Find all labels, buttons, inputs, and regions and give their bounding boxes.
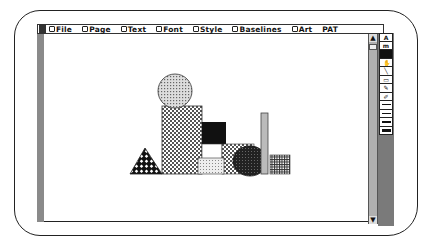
file-menu-icon — [49, 26, 55, 32]
pencil-tool-icon[interactable]: ✎ — [379, 84, 393, 93]
line-weight-3-icon — [382, 121, 391, 123]
line-weight-3-button[interactable] — [379, 118, 393, 127]
line-weight-1-button[interactable] — [379, 101, 393, 110]
drawing-canvas[interactable] — [44, 34, 368, 222]
page-menu-icon — [82, 26, 88, 32]
line-weight-2-icon — [382, 113, 391, 115]
line-weight-1-icon — [382, 104, 391, 105]
menu-text[interactable]: Text — [121, 25, 146, 34]
scroll-down-arrow-icon[interactable]: ▼ — [369, 216, 377, 224]
menu-art[interactable]: Art — [292, 25, 313, 34]
circle — [158, 74, 192, 108]
rectangle-tool-icon[interactable]: ▭ — [379, 76, 393, 85]
hand-tool-icon[interactable]: ✋ — [379, 59, 393, 68]
vertical-scrollbar[interactable]: ▲ ▼ — [368, 34, 378, 224]
gravity-tool-icon[interactable]: m — [379, 42, 393, 51]
menu-page[interactable]: Page — [82, 25, 111, 34]
text-tool-icon[interactable]: A — [379, 33, 393, 42]
line-tool-icon[interactable]: ╲ — [379, 67, 393, 76]
scroll-thumb[interactable] — [369, 44, 377, 50]
menu-pat[interactable]: PAT — [322, 25, 338, 34]
apple-menu-icon[interactable] — [39, 25, 46, 33]
eraser-tool-icon[interactable]: ✐ — [379, 93, 393, 102]
scroll-up-arrow-icon[interactable]: ▲ — [369, 34, 377, 42]
tall-thin-bar — [261, 113, 268, 174]
text-menu-icon — [121, 26, 127, 32]
tool-palette: A m ✋ ╲ ▭ ✎ ✐ — [379, 33, 393, 135]
line-weight-2-button[interactable] — [379, 110, 393, 119]
menu-bar: File Page Text Font Style Baselines Art … — [37, 24, 384, 34]
triangle — [130, 148, 162, 174]
canvas-shapes — [44, 34, 368, 222]
art-menu-icon — [292, 26, 298, 32]
menu-file[interactable]: File — [49, 25, 72, 34]
menu-style[interactable]: Style — [193, 25, 223, 34]
line-weight-4-button[interactable] — [379, 127, 393, 136]
style-menu-icon — [193, 26, 199, 32]
font-menu-icon — [156, 26, 162, 32]
menu-baselines[interactable]: Baselines — [232, 25, 281, 34]
black-square — [202, 122, 226, 144]
baselines-menu-icon — [232, 26, 238, 32]
left-border-bar — [37, 27, 44, 222]
small-rectangle — [198, 158, 224, 174]
menu-font[interactable]: Font — [156, 25, 183, 34]
fill-tool-icon[interactable] — [379, 50, 393, 59]
tall-rectangle — [162, 106, 202, 174]
white-square — [202, 144, 222, 160]
grid-square — [270, 155, 290, 174]
line-weight-4-icon — [382, 129, 391, 132]
